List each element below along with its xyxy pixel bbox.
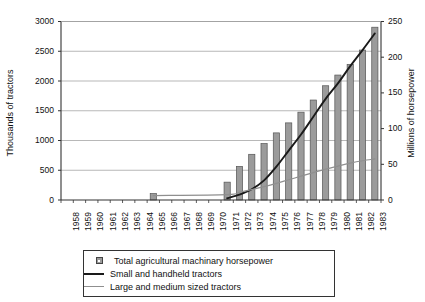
x-axis-tick-label: 1975 — [280, 212, 290, 231]
y-axis-left-tick-label: 500 — [20, 166, 54, 174]
legend-line-dark-icon — [84, 273, 104, 275]
y-axis-left-tick-label: 1500 — [20, 106, 54, 114]
x-axis-tick-label: 1983 — [378, 212, 388, 231]
legend-item: Large and medium sized tractors — [88, 280, 328, 293]
y-axis-left-tick-label: 2000 — [20, 77, 54, 85]
legend-key-bar — [88, 257, 110, 264]
legend-key-line-dark — [84, 273, 106, 275]
x-axis-tick-label: 1963 — [132, 212, 142, 231]
x-axis-tick-label: 1981 — [354, 212, 364, 231]
x-axis-tick-label: 1966 — [169, 212, 179, 231]
y-axis-left-tick-label: 0 — [20, 196, 54, 204]
y-axis-right-tick-label: 0 — [388, 196, 422, 204]
x-axis-tick-label: 1969 — [206, 212, 216, 231]
x-axis-tick-label: 1973 — [255, 212, 265, 231]
legend-item: Total agricultural machinary horsepower — [88, 254, 328, 267]
legend-item-label: Large and medium sized tractors — [106, 282, 241, 292]
x-axis-tick-label: 1971 — [231, 212, 241, 231]
chart-legend: Total agricultural machinary horsepowerS… — [83, 250, 335, 297]
x-axis-tick-label: 1961 — [108, 212, 118, 231]
x-axis-tick-label: 1967 — [182, 212, 192, 231]
x-axis-tick-label: 1958 — [71, 212, 81, 231]
y-axis-left-tick-label: 3000 — [20, 17, 54, 25]
x-axis-tick-label: 1962 — [120, 212, 130, 231]
x-axis-tick-label: 1974 — [268, 212, 278, 231]
x-axis-tick-label: 1979 — [329, 212, 339, 231]
x-axis-tick-label: 1970 — [218, 212, 228, 231]
y-axis-left-tick-label: 1000 — [20, 136, 54, 144]
y-axis-left-tick-label: 2500 — [20, 47, 54, 55]
x-axis-tick-label: 1980 — [342, 212, 352, 231]
y-axis-right-tick-label: 200 — [388, 53, 422, 61]
legend-key-line-gray — [84, 286, 106, 287]
legend-swatch-icon — [96, 257, 103, 264]
x-axis-tick-label: 1972 — [243, 212, 253, 231]
x-axis-tick-label: 1960 — [95, 212, 105, 231]
x-axis-tick-label: 1964 — [145, 212, 155, 231]
legend-item: Small and handheld tractors — [88, 267, 328, 280]
y-axis-right-tick-label: 150 — [388, 88, 422, 96]
x-axis-tick-label: 1965 — [157, 212, 167, 231]
y-axis-right-tick-label: 50 — [388, 160, 422, 168]
legend-item-label: Small and handheld tractors — [106, 269, 222, 279]
chart-figure: Thousands of tractors Millions of horsep… — [0, 0, 425, 302]
x-axis-tick-label: 1977 — [305, 212, 315, 231]
y-axis-right-tick-label: 100 — [388, 124, 422, 132]
x-axis-tick-label: 1978 — [317, 212, 327, 231]
x-axis-tick-label: 1959 — [83, 212, 93, 231]
x-axis-tick-label: 1968 — [194, 212, 204, 231]
x-axis-tick-label: 1976 — [292, 212, 302, 231]
x-axis-tick-label: 1982 — [366, 212, 376, 231]
y-axis-right-tick-label: 250 — [388, 17, 422, 25]
legend-item-label: Total agricultural machinary horsepower — [110, 256, 273, 266]
legend-line-gray-icon — [84, 286, 104, 287]
